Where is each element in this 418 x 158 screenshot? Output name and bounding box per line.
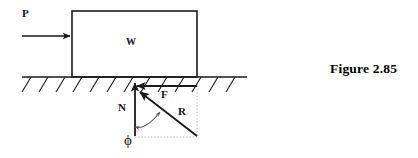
free-body-diagram: [0, 0, 418, 158]
label-normal-force-n: N: [118, 102, 126, 113]
label-applied-force-p: P: [22, 8, 29, 19]
figure-caption: Figure 2.85: [330, 62, 397, 76]
label-angle-phi: ϕ: [124, 133, 132, 148]
force-arrow-r: [140, 92, 197, 136]
figure-page: P W N F R ϕ Figure 2.85: [0, 0, 418, 158]
label-block-weight-w: W: [126, 37, 136, 47]
label-resultant-force-r: R: [178, 106, 186, 117]
ground-hatching: [22, 77, 235, 92]
label-friction-force-f: F: [161, 89, 168, 100]
angle-arc-phi: [135, 112, 160, 127]
